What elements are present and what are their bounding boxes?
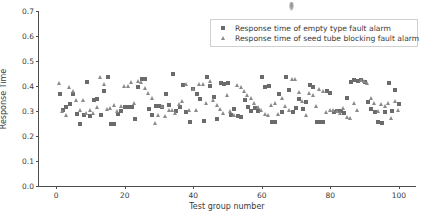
data-point-sq	[119, 109, 123, 113]
y-tick-mark	[36, 11, 39, 12]
x-tick-label: 80	[326, 191, 336, 200]
data-point-sq	[232, 107, 236, 111]
data-point-tri	[314, 104, 318, 108]
data-point-tri	[204, 101, 208, 105]
data-point-sq	[195, 92, 199, 96]
data-point-sq	[208, 84, 212, 88]
data-point-tri	[386, 101, 390, 105]
data-point-sq	[345, 96, 349, 100]
data-point-sq	[287, 88, 291, 92]
data-point-tri	[297, 90, 301, 94]
data-point-tri	[95, 105, 99, 109]
data-point-tri	[115, 109, 119, 113]
data-point-sq	[130, 105, 134, 109]
data-point-tri	[173, 111, 177, 115]
data-point-tri	[338, 111, 342, 115]
y-tick-mark	[36, 186, 39, 187]
legend-square-marker-icon	[215, 23, 231, 33]
data-point-sq	[147, 107, 151, 111]
scatter-chart-figure: Response Time 0.00.10.20.30.40.50.60.702…	[0, 0, 428, 224]
data-point-tri	[187, 108, 191, 112]
x-tick-mark	[56, 186, 57, 189]
y-tick-mark	[36, 86, 39, 87]
data-point-tri	[201, 82, 205, 86]
data-point-tri	[129, 80, 133, 84]
data-point-sq	[133, 117, 137, 121]
data-point-tri	[372, 101, 376, 105]
data-point-tri	[57, 81, 61, 85]
data-point-tri	[396, 108, 400, 112]
data-point-sq	[58, 92, 62, 96]
data-point-tri	[191, 87, 195, 91]
data-point-tri	[352, 101, 356, 105]
data-point-sq	[390, 109, 394, 113]
data-point-sq	[95, 97, 99, 101]
data-point-tri	[232, 113, 236, 117]
data-point-sq	[277, 92, 281, 96]
data-point-sq	[167, 103, 171, 107]
chart-legend: Response time of empty type fault alarm …	[210, 19, 418, 47]
data-point-sq	[171, 72, 175, 76]
data-point-tri	[300, 99, 304, 103]
data-point-sq	[78, 122, 82, 126]
data-point-sq	[311, 85, 315, 89]
legend-label: Response time of empty type fault alarm	[235, 24, 391, 33]
data-point-tri	[126, 84, 130, 88]
y-tick-mark	[36, 136, 39, 137]
data-point-tri	[71, 89, 75, 93]
y-tick-mark	[36, 161, 39, 162]
y-tick-label: 0.4	[22, 82, 34, 91]
data-point-sq	[246, 105, 250, 109]
data-point-tri	[221, 111, 225, 115]
data-point-sq	[260, 75, 264, 79]
cursor-artifact-icon	[289, 2, 294, 11]
data-point-tri	[389, 116, 393, 120]
data-point-tri	[143, 86, 147, 90]
data-point-sq	[202, 119, 206, 123]
data-point-tri	[146, 91, 150, 95]
data-point-sq	[68, 102, 72, 106]
data-point-tri	[132, 101, 136, 105]
data-point-sq	[188, 120, 192, 124]
y-tick-label: 0.2	[22, 132, 34, 141]
data-point-tri	[287, 108, 291, 112]
data-point-tri	[276, 112, 280, 116]
data-point-tri	[102, 82, 106, 86]
data-point-sq	[99, 113, 103, 117]
data-point-tri	[160, 104, 164, 108]
data-point-sq	[102, 89, 106, 93]
data-point-sq	[393, 88, 397, 92]
x-tick-label: 40	[188, 191, 198, 200]
data-point-tri	[393, 99, 397, 103]
data-point-sq	[284, 75, 288, 79]
data-point-sq	[112, 122, 116, 126]
x-tick-label: 0	[54, 191, 59, 200]
legend-label: Response time of seed tube blocking faul…	[235, 34, 419, 43]
x-tick-label: 60	[257, 191, 267, 200]
data-point-sq	[380, 121, 384, 125]
data-point-tri	[163, 114, 167, 118]
data-point-tri	[293, 77, 297, 81]
data-point-tri	[280, 96, 284, 100]
data-point-tri	[64, 113, 68, 117]
data-point-tri	[348, 116, 352, 120]
data-point-tri	[112, 103, 116, 107]
data-point-sq	[64, 105, 68, 109]
legend-triangle-marker-icon	[215, 33, 231, 43]
data-point-sq	[267, 84, 271, 88]
data-point-tri	[153, 121, 157, 125]
y-tick-mark	[36, 111, 39, 112]
x-tick-mark	[330, 186, 331, 189]
x-tick-mark	[399, 186, 400, 189]
data-point-sq	[243, 98, 247, 102]
data-point-sq	[143, 77, 147, 81]
data-point-sq	[321, 120, 325, 124]
data-point-tri	[283, 104, 287, 108]
data-point-tri	[311, 93, 315, 97]
data-point-sq	[280, 110, 284, 114]
data-point-tri	[91, 111, 95, 115]
data-point-tri	[139, 80, 143, 84]
data-point-tri	[81, 98, 85, 102]
data-point-tri	[249, 96, 253, 100]
data-point-sq	[85, 80, 89, 84]
